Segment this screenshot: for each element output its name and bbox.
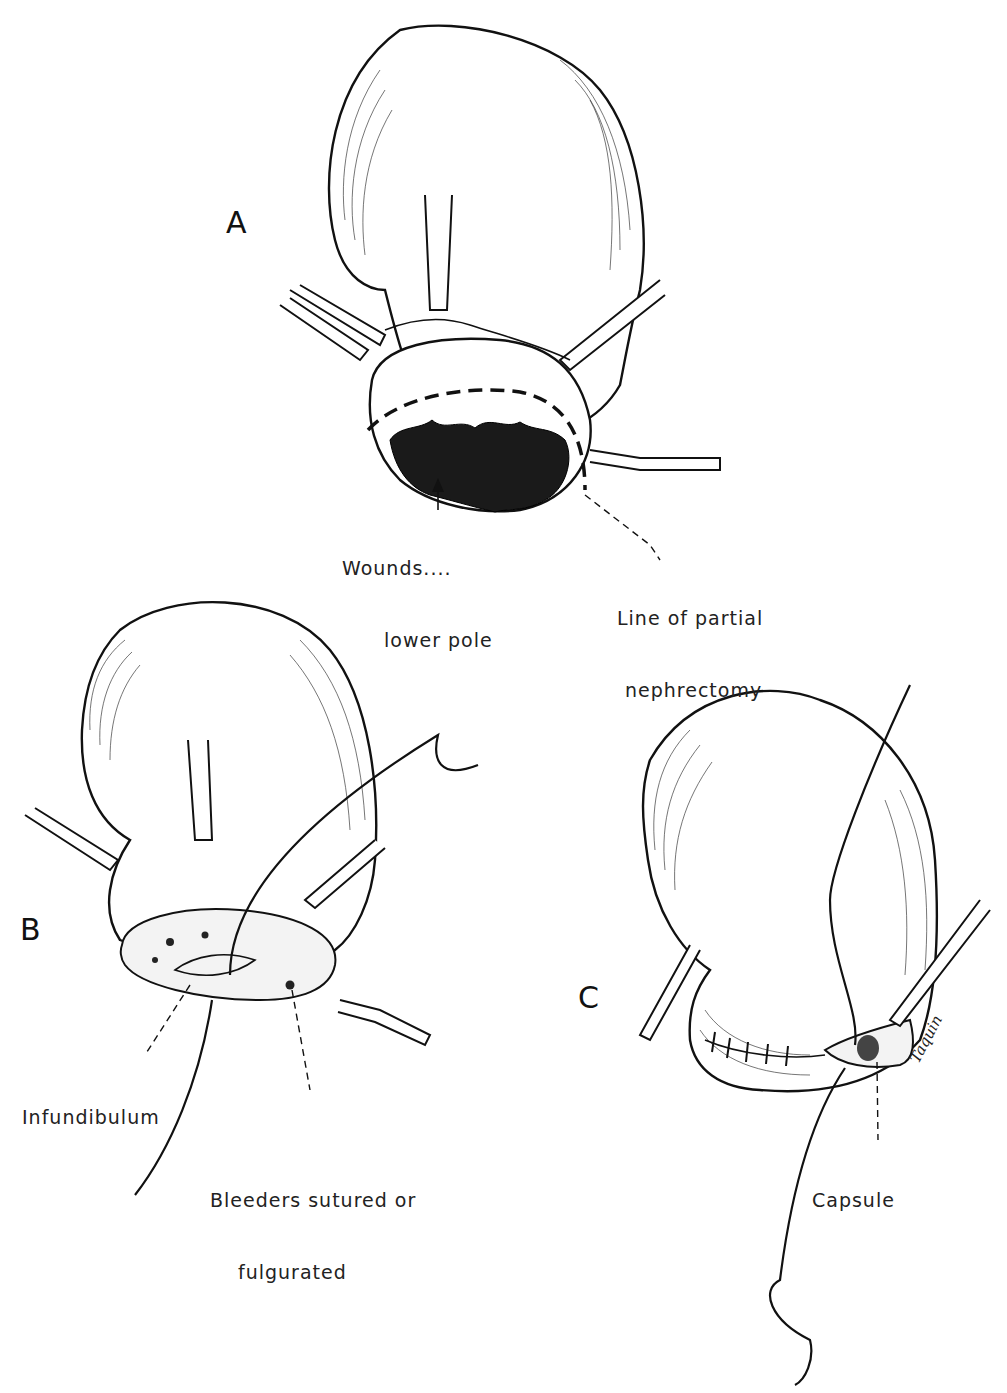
callout-wounds: Wounds.... lower pole	[342, 508, 493, 700]
panel-a-drawing	[280, 26, 720, 560]
callout-resection-line: Line of partial nephrectomy	[617, 558, 763, 750]
callout-resection-line1: Line of partial	[617, 606, 763, 630]
surgical-illustration: A B C Wounds.... lower pole Line of part…	[0, 0, 1007, 1393]
callout-bleeders-line2: fulgurated	[210, 1260, 416, 1284]
callout-infundibulum: Infundibulum	[22, 1057, 160, 1177]
callout-infundibulum-line1: Infundibulum	[22, 1105, 160, 1129]
callout-capsule-line1: Capsule	[812, 1188, 895, 1212]
callout-capsule: Capsule	[812, 1140, 895, 1260]
callout-bleeders: Bleeders sutured or fulgurated	[210, 1140, 416, 1332]
callout-bleeders-line1: Bleeders sutured or	[210, 1188, 416, 1212]
callout-wounds-line2: lower pole	[342, 628, 493, 652]
panel-label-b: B	[20, 912, 41, 947]
wound-mass-a	[390, 420, 569, 512]
kidney-b-outline	[82, 602, 376, 959]
panel-label-a: A	[226, 205, 247, 240]
panel-label-c: C	[578, 980, 599, 1015]
callout-resection-line2: nephrectomy	[617, 678, 763, 702]
callout-wounds-line1: Wounds....	[342, 556, 493, 580]
